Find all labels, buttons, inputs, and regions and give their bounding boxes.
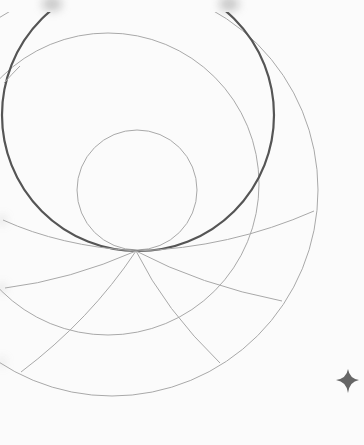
bold-circle (2, 0, 274, 251)
fan-arc-down-right (136, 251, 220, 363)
fan-arcs (3, 211, 314, 372)
small-circle (77, 130, 197, 250)
smudge-marks (0, 0, 239, 367)
geometric-line-art (0, 0, 364, 445)
fan-arc-lower-left (5, 251, 136, 288)
fan-arc-down-left (21, 251, 136, 372)
illustration-canvas (0, 0, 364, 445)
medium-circle (0, 33, 259, 335)
fan-arc-lower-right (136, 251, 282, 301)
top-left-arc-stub (4, 66, 20, 83)
sparkle-star-icon (336, 369, 359, 393)
outer-circle (0, 0, 318, 396)
fan-arc-upper-right (136, 211, 314, 251)
